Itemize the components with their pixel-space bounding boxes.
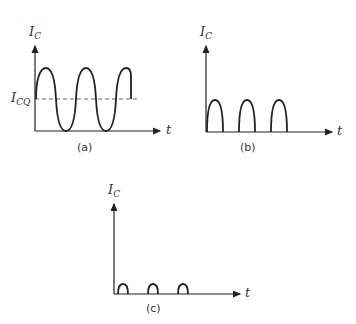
half-wave-pulses xyxy=(207,100,287,132)
xlabel-c: t xyxy=(245,285,250,300)
ylabel-c: IC xyxy=(108,182,120,199)
xlabel-b: t xyxy=(337,123,342,138)
panel-a xyxy=(35,46,160,131)
caption-c: (c) xyxy=(146,302,161,315)
waveform-diagrams xyxy=(0,0,356,324)
narrow-pulses xyxy=(118,284,188,294)
icq-label: ICQ xyxy=(11,90,30,107)
panel-c xyxy=(114,204,240,294)
ylabel-b: IC xyxy=(200,24,212,41)
xlabel-a: t xyxy=(166,122,171,137)
panel-b xyxy=(206,46,332,132)
ylabel-a: IC xyxy=(29,24,41,41)
caption-a: (a) xyxy=(77,141,92,154)
caption-b: (b) xyxy=(240,141,256,154)
